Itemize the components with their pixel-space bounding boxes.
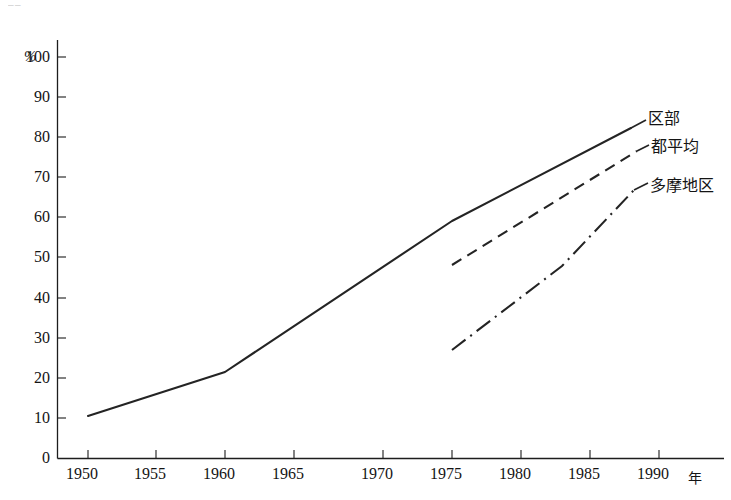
leader-line-toheikin	[637, 145, 649, 151]
y-tick-label-50: 50	[8, 248, 50, 266]
y-tick-label-0: 0	[8, 449, 50, 467]
y-axis-ticks	[58, 57, 67, 418]
x-tick-label-1985: 1985	[568, 465, 600, 483]
x-tick-label-1950: 1950	[66, 465, 98, 483]
series-line-tamachiku	[452, 190, 634, 350]
leader-line-tamachiku	[634, 183, 648, 190]
x-tick-label-1965: 1965	[272, 465, 304, 483]
y-tick-label-10: 10	[8, 409, 50, 427]
x-tick-label-1960: 1960	[203, 465, 235, 483]
legend-label-toheikin: 都平均	[651, 133, 699, 157]
y-tick-label-60: 60	[8, 208, 50, 226]
series-line-kubu	[88, 128, 631, 416]
x-tick-label-1975: 1975	[430, 465, 462, 483]
x-tick-label-1970: 1970	[361, 465, 393, 483]
y-tick-label-20: 20	[8, 369, 50, 387]
y-tick-label-30: 30	[8, 329, 50, 347]
legend-label-kubu: 区部	[648, 105, 680, 129]
y-tick-label-40: 40	[8, 289, 50, 307]
y-tick-label-100: 100	[8, 48, 50, 66]
x-tick-label-1955: 1955	[134, 465, 166, 483]
y-tick-label-70: 70	[8, 168, 50, 186]
y-tick-label-90: 90	[8, 88, 50, 106]
leader-line-kubu	[631, 120, 646, 128]
chart-container: ⎯⎯ %	[0, 0, 731, 500]
x-axis-unit-label: 年	[688, 467, 702, 487]
y-tick-label-80: 80	[8, 128, 50, 146]
x-tick-label-1990: 1990	[637, 465, 669, 483]
legend-label-tamachiku: 多摩地区	[650, 172, 714, 196]
x-axis-ticks	[88, 450, 659, 459]
chart-plot-area	[0, 0, 731, 500]
x-tick-label-1980: 1980	[499, 465, 531, 483]
series-line-toheikin	[452, 151, 637, 265]
